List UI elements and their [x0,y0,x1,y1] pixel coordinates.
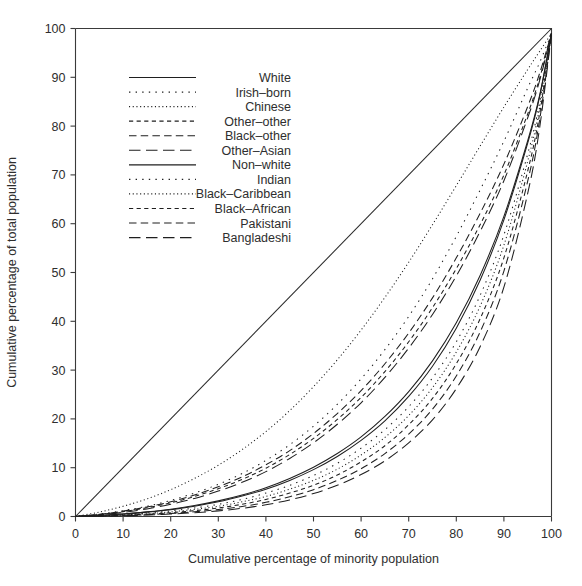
x-tick-label-90: 90 [497,527,511,541]
legend-label-9: Black–African [215,202,291,216]
axis-titles: Cumulative percentage of minority popula… [5,157,439,566]
legend-label-8: Black–Caribbean [196,187,291,201]
x-tick-label-0: 0 [72,527,79,541]
legend-label-0: White [259,71,291,85]
x-tick-label-10: 10 [116,527,130,541]
chart-legend: WhiteIrish–bornChineseOther–otherBlack–o… [129,71,291,245]
legend-label-10: Pakistani [240,217,291,231]
x-tick-label-70: 70 [402,527,416,541]
x-axis-title: Cumulative percentage of minority popula… [188,552,439,566]
legend-label-3: Other–other [224,115,291,129]
chart-canvas: 0102030405060708090100010203040506070809… [0,0,582,586]
y-tick-label-50: 50 [52,266,66,280]
lorenz-curve-chart: 0102030405060708090100010203040506070809… [0,0,582,586]
x-tick-label-60: 60 [354,527,368,541]
y-tick-label-90: 90 [52,71,66,85]
legend-label-6: Non–white [232,158,291,172]
x-tick-label-40: 40 [259,527,273,541]
y-tick-label-20: 20 [52,412,66,426]
x-tick-label-30: 30 [211,527,225,541]
legend-label-11: Bangladeshi [222,231,291,245]
legend-label-5: Other–Asian [222,144,292,158]
axes: 0102030405060708090100010203040506070809… [45,22,562,541]
x-tick-label-100: 100 [541,527,562,541]
legend-label-2: Chinese [245,100,291,114]
data-curves [76,29,552,517]
y-tick-label-40: 40 [52,315,66,329]
y-tick-label-10: 10 [52,461,66,475]
x-tick-label-20: 20 [164,527,178,541]
y-tick-label-80: 80 [52,120,66,134]
y-tick-label-60: 60 [52,217,66,231]
legend-label-4: Black–other [225,129,291,143]
y-tick-label-30: 30 [52,364,66,378]
legend-label-7: Indian [257,173,291,187]
y-tick-label-0: 0 [59,510,66,524]
x-tick-label-50: 50 [307,527,321,541]
x-tick-label-80: 80 [449,527,463,541]
y-tick-label-100: 100 [45,22,66,36]
y-axis-title: Cumulative percentage of total populatio… [5,157,19,388]
equality-diagonal [76,29,552,517]
y-tick-label-70: 70 [52,168,66,182]
legend-label-1: Irish–born [235,86,291,100]
